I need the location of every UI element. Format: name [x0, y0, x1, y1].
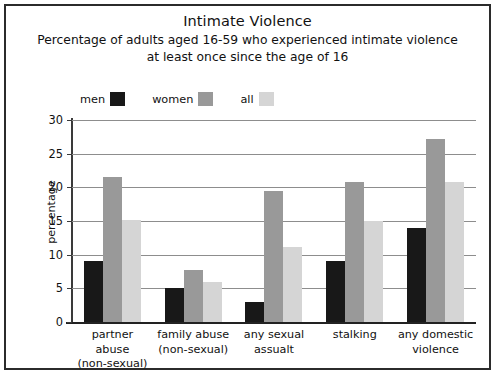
- plot-area: 051015202530: [72, 120, 476, 322]
- bar-all: [283, 247, 302, 322]
- chart-frame: Intimate Violence Percentage of adults a…: [4, 4, 491, 370]
- bar-men: [326, 261, 345, 322]
- bar-all: [203, 282, 222, 322]
- plot-wrapper: percentage 051015202530 partner abuse(no…: [6, 6, 489, 368]
- x-axis-line: [66, 322, 476, 324]
- y-tick-mark: [67, 322, 72, 323]
- bar-women: [103, 177, 122, 322]
- x-tick-label: partner abuse(non-sexual): [72, 328, 153, 372]
- y-tick-label: 5: [56, 281, 63, 295]
- x-tick-label-line: any domestic: [396, 328, 475, 343]
- y-tick-label: 10: [49, 248, 64, 262]
- x-tick-label-line: any sexual: [235, 328, 314, 343]
- bar-all: [364, 221, 383, 322]
- x-tick-label: any sexualassualt: [234, 328, 315, 372]
- bar-women: [264, 191, 283, 322]
- y-tick-label: 25: [49, 147, 64, 161]
- x-tick-label-line: family abuse: [154, 328, 233, 343]
- bar-men: [407, 228, 426, 322]
- y-tick-label: 0: [56, 315, 63, 329]
- bar-men: [165, 288, 184, 322]
- bar-women: [345, 182, 364, 322]
- bar-men: [84, 261, 103, 322]
- bar-groups: [72, 120, 476, 322]
- bar-group: [72, 120, 153, 322]
- x-tick-label: family abuse(non-sexual): [153, 328, 234, 372]
- bar-all: [445, 182, 464, 322]
- y-tick-label: 15: [49, 214, 64, 228]
- x-tick-label: any domesticviolence: [395, 328, 476, 372]
- x-tick-label-line: (non-sexual): [73, 357, 152, 372]
- x-tick-label-line: partner abuse: [73, 328, 152, 357]
- x-tick-label-line: assualt: [235, 343, 314, 358]
- bar-group: [153, 120, 234, 322]
- bar-group: [314, 120, 395, 322]
- x-tick-label-line: stalking: [315, 328, 394, 343]
- y-tick-label: 30: [49, 113, 64, 127]
- x-tick-label-line: (non-sexual): [154, 343, 233, 358]
- bar-all: [122, 220, 141, 322]
- x-tick-label: stalking: [314, 328, 395, 372]
- x-tick-label-line: violence: [396, 343, 475, 358]
- bar-group: [395, 120, 476, 322]
- x-axis-labels: partner abuse(non-sexual)family abuse(no…: [72, 328, 476, 372]
- bar-women: [184, 270, 203, 322]
- bar-women: [426, 139, 445, 322]
- y-tick-label: 20: [49, 180, 64, 194]
- bar-men: [245, 302, 264, 322]
- bar-group: [234, 120, 315, 322]
